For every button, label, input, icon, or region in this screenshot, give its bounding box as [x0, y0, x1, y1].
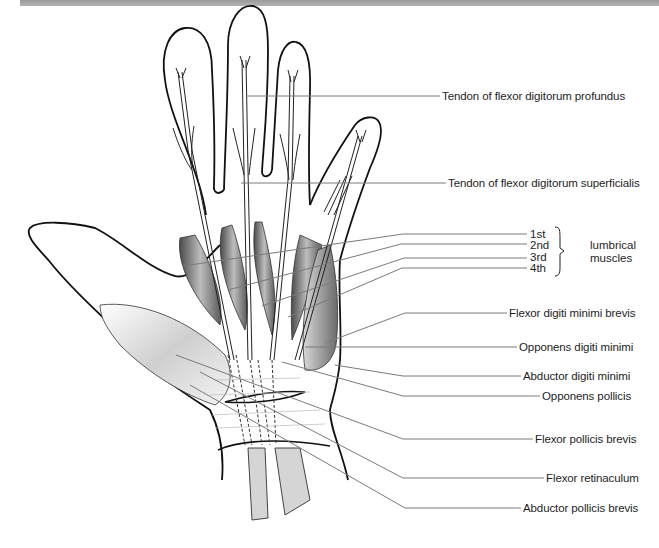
leader-apb: [190, 385, 521, 508]
lumbrical-brace: [555, 227, 564, 276]
forearm-tendons: [248, 448, 310, 520]
label-lumbrical-4th: 4th: [530, 263, 546, 274]
label-flexor-retinaculum: Flexor retinaculum: [546, 472, 639, 485]
finger-tendons: [173, 56, 366, 215]
label-abductor-digiti-minimi: Abductor digiti minimi: [523, 370, 630, 383]
label-flexor-pollicis-brevis: Flexor pollicis brevis: [535, 433, 636, 446]
label-lumbrical-group-line2: muscles: [590, 252, 636, 265]
label-flexor-digiti-minimi-brevis: Flexor digiti minimi brevis: [509, 307, 635, 320]
label-lumbrical-group: lumbrical muscles: [590, 239, 636, 265]
palm-muscles: [100, 222, 338, 405]
leader-adm: [335, 365, 521, 376]
label-abductor-pollicis-brevis: Abductor pollicis brevis: [523, 502, 638, 515]
leader-fdmb: [325, 313, 507, 343]
label-lumbrical-2nd: 2nd: [530, 240, 549, 251]
label-opponens-digiti-minimi: Opponens digiti minimi: [519, 341, 633, 354]
label-opponens-pollicis: Opponens pollicis: [542, 390, 631, 403]
hand-illustration: [0, 0, 659, 548]
label-lumbrical-group-line1: lumbrical: [590, 239, 636, 252]
label-tendon-flexor-digitorum-superficialis: Tendon of flexor digitorum superficialis: [448, 177, 640, 190]
label-tendon-flexor-digitorum-profundus: Tendon of flexor digitorum profundus: [442, 90, 625, 103]
